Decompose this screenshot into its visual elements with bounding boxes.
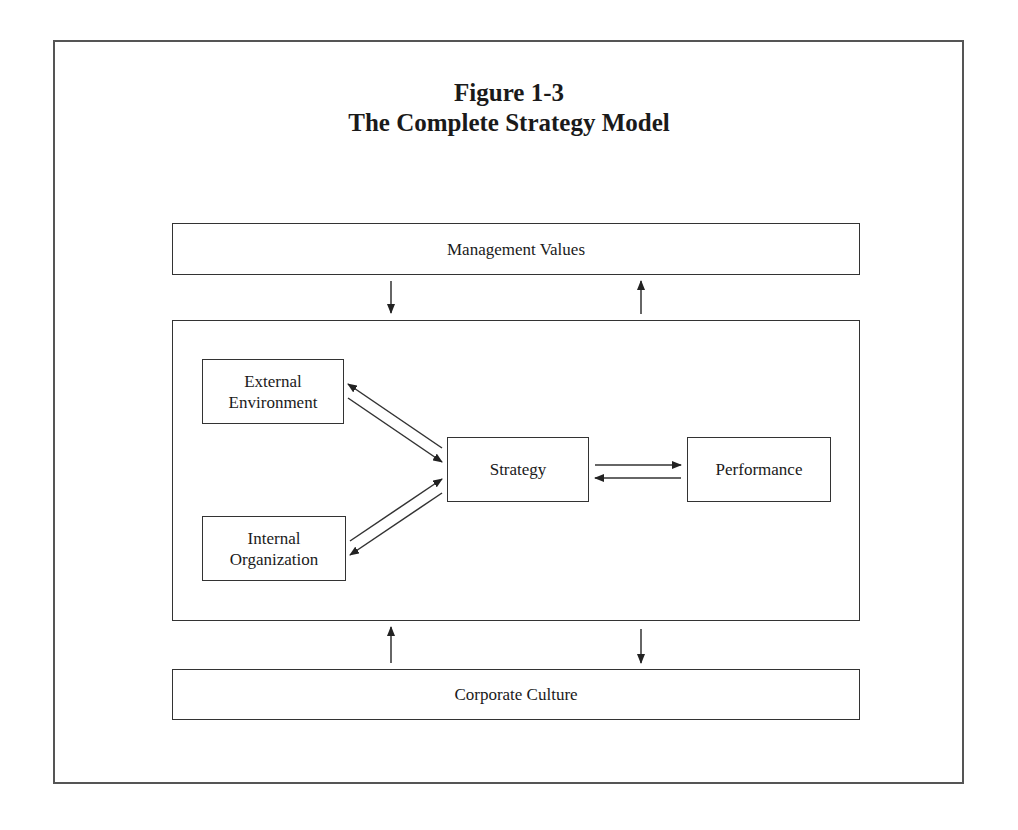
external-environment-line2: Environment xyxy=(229,392,318,413)
internal-organization-line2: Organization xyxy=(230,549,318,570)
external-environment-box: External Environment xyxy=(202,359,344,424)
figure-number: Figure 1-3 xyxy=(0,78,1018,108)
strategy-label: Strategy xyxy=(490,459,547,480)
strategy-box: Strategy xyxy=(447,437,589,502)
performance-label: Performance xyxy=(716,459,803,480)
external-environment-line1: External xyxy=(244,371,302,392)
internal-organization-box: Internal Organization xyxy=(202,516,346,581)
internal-organization-line1: Internal xyxy=(248,528,301,549)
performance-box: Performance xyxy=(687,437,831,502)
corporate-culture-label: Corporate Culture xyxy=(454,684,577,705)
management-values-box: Management Values xyxy=(172,223,860,275)
management-values-label: Management Values xyxy=(447,239,585,260)
corporate-culture-box: Corporate Culture xyxy=(172,669,860,720)
figure-title: The Complete Strategy Model xyxy=(0,108,1018,138)
